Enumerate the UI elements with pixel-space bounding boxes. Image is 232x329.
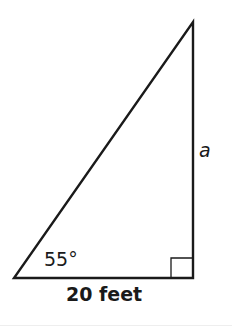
right-triangle-diagram: 55° a 20 feet: [0, 0, 232, 329]
triangle-drawing: [0, 0, 232, 329]
triangle-outline: [14, 22, 193, 278]
right-angle-marker: [171, 258, 193, 278]
base-length-label: 20 feet: [66, 283, 142, 305]
angle-label: 55°: [44, 248, 78, 270]
side-a-label: a: [199, 139, 211, 161]
bottom-divider: [0, 325, 232, 326]
